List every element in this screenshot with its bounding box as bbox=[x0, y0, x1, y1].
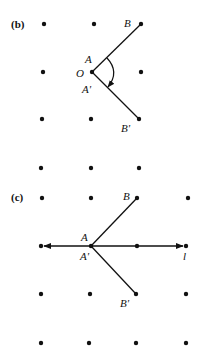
label-B-prime: B' bbox=[121, 122, 131, 134]
panel-c: (c) B A A' l B' bbox=[11, 190, 190, 345]
label-A-prime: A' bbox=[81, 83, 92, 95]
label-A: A bbox=[84, 53, 92, 65]
segment-ABprime bbox=[91, 246, 136, 294]
label-B: B bbox=[123, 190, 130, 202]
label-A-prime: A' bbox=[79, 250, 90, 262]
rotation-arc bbox=[107, 58, 114, 87]
label-A: A bbox=[80, 231, 88, 243]
lattice-points-b bbox=[39, 22, 143, 170]
label-B-prime: B' bbox=[120, 297, 130, 309]
panel-b: (b) B A O A' B' bbox=[11, 17, 143, 170]
segment-OB bbox=[92, 24, 141, 72]
diagram: (b) B A O A' B' (c) B A A' l B' bbox=[0, 0, 206, 354]
label-B: B bbox=[124, 17, 131, 29]
panel-b-label: (b) bbox=[11, 18, 25, 31]
panel-c-label: (c) bbox=[11, 191, 24, 204]
label-l: l bbox=[183, 250, 186, 262]
segment-OBprime bbox=[92, 72, 139, 119]
label-O: O bbox=[76, 67, 84, 79]
segment-AB bbox=[91, 198, 137, 246]
